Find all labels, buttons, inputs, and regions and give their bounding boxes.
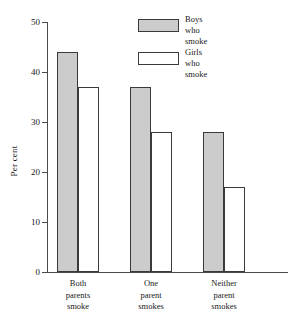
x-axis-label-both-parents-smoke-line3: smoke [66, 301, 91, 313]
legend-label-boys-line3: smoke [185, 36, 207, 47]
y-tick-label-0: 0 [36, 268, 41, 277]
legend-swatch-girls-icon [138, 52, 179, 65]
y-tick-20 [42, 172, 47, 173]
legend-swatch-boys-icon [138, 19, 179, 32]
y-tick-10 [42, 222, 47, 223]
legend-label-boys-line2: who [185, 25, 207, 36]
y-tick-50 [42, 22, 47, 23]
bar-girls-group-1 [78, 87, 99, 272]
x-axis-line [47, 272, 288, 273]
bar-chart: Per cent 01020304050 BothparentssmokeOne… [0, 0, 300, 321]
y-tick-label-10: 10 [31, 218, 40, 227]
bar-girls-group-3 [224, 187, 245, 272]
x-axis-label-both-parents-smoke: Bothparentssmoke [66, 278, 91, 313]
x-axis-label-neither-parent-smokes-line2: parent [211, 290, 237, 302]
x-axis-label-one-parent-smokes: Oneparentsmokes [138, 278, 164, 313]
y-tick-label-40: 40 [31, 68, 40, 77]
x-axis-label-one-parent-smokes-line1: One [138, 278, 164, 290]
legend-label-girls-line3: smoke [185, 69, 207, 80]
bar-girls-group-2 [151, 132, 172, 272]
x-axis-label-one-parent-smokes-line2: parent [138, 290, 164, 302]
y-tick-label-30: 30 [31, 118, 40, 127]
x-axis-label-one-parent-smokes-line3: smokes [138, 301, 164, 313]
legend-label-girls-line1: Girls [185, 47, 207, 58]
legend-label-boys-line1: Boys [185, 14, 207, 25]
legend-label-girls: Girls who smoke [185, 47, 207, 80]
x-axis-label-both-parents-smoke-line1: Both [66, 278, 91, 290]
y-tick-30 [42, 122, 47, 123]
bar-boys-group-3 [203, 132, 224, 272]
y-tick-40 [42, 72, 47, 73]
y-axis-title: Per cent [9, 145, 19, 176]
x-axis-label-neither-parent-smokes: Neitherparentsmokes [211, 278, 237, 313]
y-tick-label-50: 50 [31, 18, 40, 27]
y-tick-0 [42, 272, 47, 273]
legend-label-girls-line2: who [185, 58, 207, 69]
x-axis-label-neither-parent-smokes-line1: Neither [211, 278, 237, 290]
bar-boys-group-1 [57, 52, 78, 272]
bar-boys-group-2 [130, 87, 151, 272]
legend-label-boys: Boys who smoke [185, 14, 207, 47]
x-axis-label-neither-parent-smokes-line3: smokes [211, 301, 237, 313]
x-axis-label-both-parents-smoke-line2: parents [66, 290, 91, 302]
y-tick-label-20: 20 [31, 168, 40, 177]
